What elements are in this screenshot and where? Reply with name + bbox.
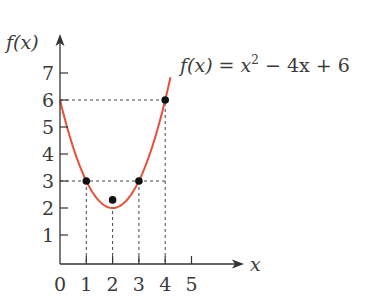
equation-prefix: f(x) = x (178, 54, 252, 76)
x-tick-label: 1 (80, 273, 92, 295)
parabola-curve (60, 77, 170, 208)
x-tick-label: 3 (133, 273, 145, 295)
x-tick-label: 0 (54, 273, 66, 295)
data-point (83, 177, 91, 185)
y-tick-label: 7 (42, 62, 54, 84)
y-axis-label: f(x) (4, 31, 39, 53)
function-graph: 0123451234567 f(x) x f(x) = x2 − 4x + 6 (0, 0, 375, 307)
y-tick-label: 5 (42, 116, 54, 138)
x-tick-label: 4 (159, 273, 171, 295)
data-point (135, 177, 143, 185)
data-point (161, 96, 169, 104)
dashed-guide-lines (60, 100, 165, 262)
marked-points (83, 96, 170, 204)
equation-label: f(x) = x2 − 4x + 6 (178, 53, 350, 76)
equation-suffix: − 4x + 6 (259, 54, 350, 76)
data-point (109, 196, 117, 204)
equation-exponent: 2 (251, 53, 259, 67)
y-tick-label: 3 (42, 170, 54, 192)
y-tick-label: 6 (42, 89, 54, 111)
y-tick-label: 2 (42, 197, 54, 219)
x-tick-label: 2 (107, 273, 119, 295)
x-axis-label: x (250, 253, 261, 275)
y-tick-label: 1 (42, 224, 54, 246)
x-tick-label: 5 (185, 273, 197, 295)
y-tick-label: 4 (42, 143, 54, 165)
tick-labels: 0123451234567 (42, 62, 198, 295)
